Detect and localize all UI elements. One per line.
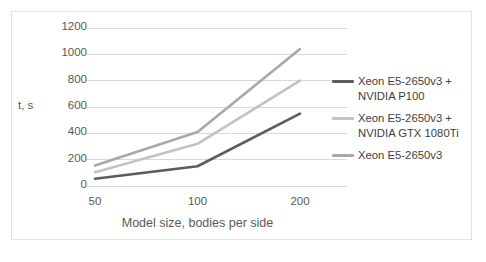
legend-color-swatch-icon — [332, 154, 354, 157]
legend-item-0[interactable]: Xeon E5-2650v3 + NVIDIA P100 — [332, 74, 472, 103]
legend-color-swatch-icon — [332, 117, 354, 120]
y-axis-tick-400: 400 — [42, 125, 87, 137]
y-axis-tick-600: 600 — [42, 99, 87, 111]
legend-item-label: Xeon E5-2650v3 + NVIDIA P100 — [358, 74, 452, 103]
x-axis-tick-100: 100 — [173, 195, 223, 207]
y-axis-tick-0: 0 — [42, 178, 87, 190]
y-axis-tick-1200: 1200 — [42, 20, 87, 32]
legend-item-2[interactable]: Xeon E5-2650v3 — [332, 148, 472, 163]
legend-item-label: Xeon E5-2650v3 + NVIDIA GTX 1080Ti — [358, 111, 459, 140]
y-axis-tick-1000: 1000 — [42, 46, 87, 58]
x-axis-title: Model size, bodies per side — [55, 216, 340, 230]
chart-container: 1200 1000 800 600 400 200 0 t, s 50 100 … — [11, 11, 472, 240]
x-axis-tick-50: 50 — [70, 195, 120, 207]
y-axis-tick-200: 200 — [42, 152, 87, 164]
legend-item-1[interactable]: Xeon E5-2650v3 + NVIDIA GTX 1080Ti — [332, 111, 472, 140]
x-axis-tick-200: 200 — [275, 195, 325, 207]
y-axis-title: t, s — [18, 99, 33, 111]
legend-item-label: Xeon E5-2650v3 — [358, 148, 442, 163]
chart-legend: Xeon E5-2650v3 + NVIDIA P100 Xeon E5-265… — [332, 74, 472, 171]
y-axis-tick-800: 800 — [42, 73, 87, 85]
legend-color-swatch-icon — [332, 80, 354, 83]
